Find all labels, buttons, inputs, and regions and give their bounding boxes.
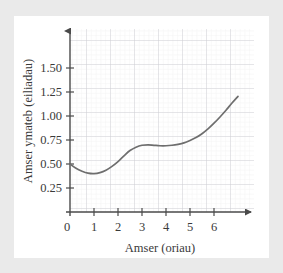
x-tick-label-1: 1 [91,220,97,234]
grid-area [70,29,254,212]
x-tick-label-0: 0 [64,220,70,234]
chart-svg: 0.25 0.50 0.75 1.00 1.25 1.50 0 1 2 3 4 … [14,16,269,258]
y-tick-label-0: 0.25 [40,181,62,195]
x-tick-label-3: 3 [139,220,145,234]
x-tick-label-6: 6 [211,220,217,234]
y-tick-labels: 0.25 0.50 0.75 1.00 1.25 1.50 [40,61,62,195]
plot-grid [70,29,254,212]
y-axis-title: Amser ymateb (eiliadau) [21,59,35,183]
x-tick-labels: 0 1 2 3 4 5 6 [64,220,217,234]
y-tick-label-3: 1.00 [40,109,62,123]
chart-card: 0.25 0.50 0.75 1.00 1.25 1.50 0 1 2 3 4 … [14,16,269,258]
y-tick-label-5: 1.50 [40,61,62,75]
screenshot-root: 0.25 0.50 0.75 1.00 1.25 1.50 0 1 2 3 4 … [0,0,283,273]
x-tick-label-5: 5 [187,220,193,234]
y-tick-label-4: 1.25 [40,85,62,99]
x-tick-label-4: 4 [163,220,170,234]
x-axis-title: Amser (oriau) [125,241,195,255]
response-time-chart: 0.25 0.50 0.75 1.00 1.25 1.50 0 1 2 3 4 … [14,16,269,258]
x-tick-label-2: 2 [115,220,121,234]
y-tick-label-1: 0.50 [40,157,62,171]
y-tick-label-2: 0.75 [40,133,62,147]
